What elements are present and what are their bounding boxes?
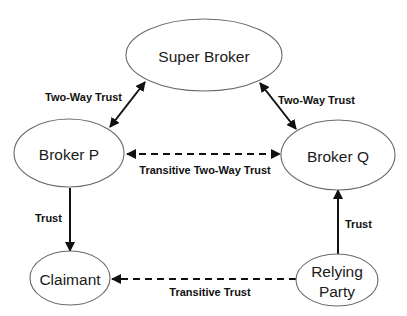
node-label: Broker Q: [307, 148, 369, 165]
edge-broker-p-claimant: Trust: [35, 188, 70, 251]
two-way-arrow: [260, 83, 296, 129]
edge-broker-p-broker-q: Transitive Two-Way Trust: [127, 154, 280, 176]
edge-relying-party-broker-q: Trust: [338, 190, 372, 254]
edge-label: Two-Way Trust: [45, 91, 122, 103]
node-broker-q: Broker Q: [281, 120, 395, 190]
edge-label: Transitive Trust: [169, 286, 251, 298]
node-relying-party: Relying Party: [296, 254, 378, 306]
node-claimant: Claimant: [30, 251, 110, 305]
edge-relying-party-claimant: Transitive Trust: [112, 279, 296, 298]
node-label: Claimant: [39, 271, 101, 288]
edge-label: Trust: [35, 212, 62, 224]
node-label: Broker P: [39, 146, 99, 163]
edge-label: Transitive Two-Way Trust: [139, 164, 271, 176]
edge-label: Trust: [345, 218, 372, 230]
node-label-line2: Party: [319, 283, 355, 300]
node-label-line1: Relying: [311, 263, 363, 280]
node-broker-p: Broker P: [14, 119, 124, 187]
node-label: Super Broker: [158, 48, 249, 65]
edge-label: Two-Way Trust: [278, 94, 355, 106]
trust-diagram: Two-Way Trust Two-Way Trust Transitive T…: [0, 0, 407, 316]
node-super-broker: Super Broker: [126, 19, 282, 91]
two-way-arrow: [110, 82, 145, 127]
